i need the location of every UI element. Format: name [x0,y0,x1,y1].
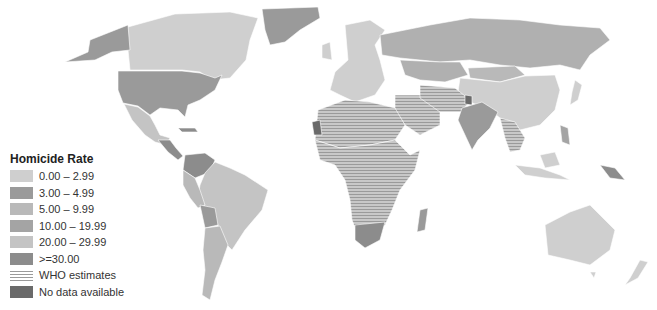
europe-region [330,20,385,102]
papua-new-guinea-region [600,165,625,180]
kazakhstan-region [400,60,468,82]
legend-item: >=30.00 [10,251,150,268]
legend-item: 5.00 – 9.99 [10,201,150,218]
legend-label: >=30.00 [39,253,79,265]
legend-label: 20.00 – 29.99 [39,236,106,248]
legend-item: 3.00 – 4.99 [10,185,150,202]
legend-label: No data available [39,286,124,298]
alaska-region [65,25,130,62]
legend-swatch [10,253,33,265]
legend: Homicide Rate 0.00 – 2.99 3.00 – 4.99 5.… [10,152,150,300]
caribbean-region [178,128,198,132]
madagascar-region [417,208,428,232]
legend-label: 3.00 – 4.99 [39,187,94,199]
legend-title: Homicide Rate [10,152,150,166]
legend-swatch [10,286,33,298]
new-zealand-region [625,260,648,285]
legend-swatch [10,220,33,232]
legend-swatch [10,203,33,215]
legend-item: 0.00 – 2.99 [10,168,150,185]
legend-swatch [10,170,33,182]
legend-item: 20.00 – 29.99 [10,234,150,251]
legend-item: 10.00 – 19.99 [10,218,150,235]
argentina-chile-region [202,226,228,300]
bolivia-region [200,205,218,228]
south-africa-region [355,222,385,248]
central-america-region [158,140,183,160]
australia-region [545,205,615,265]
legend-label: 5.00 – 9.99 [39,203,94,215]
japan-region [570,80,582,105]
india-region [458,102,498,150]
tasmania-region [590,272,596,278]
legend-label: 0.00 – 2.99 [39,170,94,182]
legend-swatch [10,269,33,281]
legend-label: WHO estimates [39,269,116,281]
canada-region [128,12,258,80]
west-sahara-no-data-region [312,120,322,135]
borneo-region [540,152,560,168]
greenland-region [262,7,320,45]
legend-swatch [10,187,33,199]
legend-item: WHO estimates [10,267,150,284]
legend-item: No data available [10,284,150,301]
legend-swatch [10,236,33,248]
philippines-region [560,125,570,145]
legend-label: 10.00 – 19.99 [39,220,106,232]
uk-region [322,42,332,60]
indonesia-region [515,165,570,180]
kashmir-no-data-region [465,95,472,105]
